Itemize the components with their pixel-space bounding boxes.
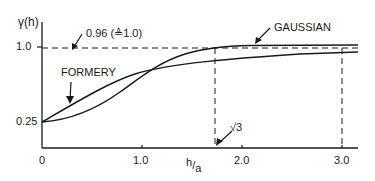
- x-axis-label-den: a: [195, 162, 201, 174]
- y-axis-label: γ(h): [18, 16, 39, 28]
- annotation-formery: FORMERY: [61, 67, 116, 78]
- x-tick-label-1: 1.0: [133, 155, 148, 166]
- annotation-096: 0.96 (≜1.0): [86, 28, 142, 39]
- y-tick-label-025: 0.25: [16, 116, 37, 127]
- arrow-sqrt3: [216, 131, 232, 146]
- x-tick-label-2: 2.0: [234, 155, 249, 166]
- arrow-formery: [66, 82, 74, 104]
- x-tick-label-0: 0: [39, 155, 45, 166]
- gaussian-curve: [42, 45, 358, 122]
- annotation-sqrt3: √3: [230, 122, 242, 133]
- x-axis-label-num: h: [186, 156, 192, 168]
- y-tick-label-1: 1.0: [16, 41, 31, 52]
- x-axis-label: h/a: [186, 160, 201, 171]
- arrow-gaussian: [255, 28, 270, 44]
- formery-curve: [42, 52, 358, 122]
- annotation-gaussian: GAUSSIAN: [274, 22, 331, 33]
- x-tick-label-3: 3.0: [334, 155, 349, 166]
